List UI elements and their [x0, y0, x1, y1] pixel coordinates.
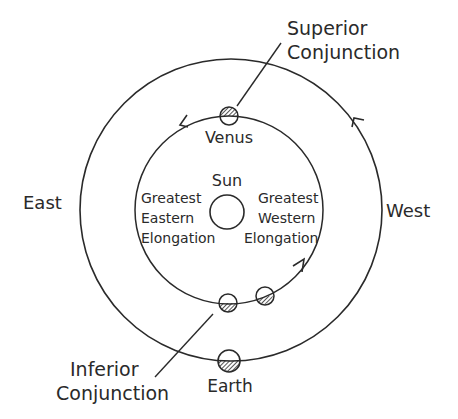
venus-superior-icon: [220, 107, 238, 125]
earth-label: Earth: [207, 376, 253, 396]
venus-orbit-arrow-bottom-icon: [293, 259, 304, 272]
west-label: West: [386, 200, 430, 221]
earth-icon: [218, 350, 240, 372]
sun-icon: [210, 195, 244, 229]
orbit-diagram: Superior Conjunction Venus Sun East West…: [0, 0, 458, 419]
venus-after-inferior-icon: [256, 287, 274, 305]
greatest-eastern-elongation-line2: Eastern: [141, 210, 194, 226]
greatest-western-elongation-line1: Greatest: [258, 190, 319, 206]
superior-conjunction-label-line1: Superior: [287, 17, 368, 39]
inferior-conjunction-label-line2: Conjunction: [56, 382, 169, 404]
greatest-eastern-elongation-line1: Greatest: [141, 190, 202, 206]
earth-orbit-arrow-icon: [352, 118, 364, 127]
greatest-western-elongation-line2: Western: [258, 210, 315, 226]
inferior-conjunction-label-line1: Inferior: [70, 358, 139, 380]
superior-conjunction-leader: [237, 43, 281, 106]
venus-inferior-icon: [219, 294, 237, 312]
venus-label: Venus: [205, 128, 253, 147]
sun-label: Sun: [212, 171, 242, 190]
greatest-western-elongation-line3: Elongation: [244, 230, 318, 246]
superior-conjunction-label-line2: Conjunction: [287, 41, 400, 63]
diagram-canvas: Superior Conjunction Venus Sun East West…: [0, 0, 458, 419]
greatest-eastern-elongation-line3: Elongation: [141, 230, 215, 246]
east-label: East: [23, 192, 62, 213]
